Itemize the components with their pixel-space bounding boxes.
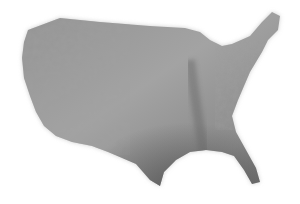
relief-map: [0, 0, 300, 204]
land-area: [0, 0, 300, 204]
us-relief-map-graphic: [0, 0, 300, 204]
